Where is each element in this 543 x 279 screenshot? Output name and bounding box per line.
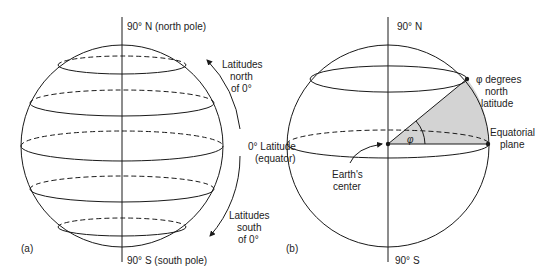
- south-label-b: 90° S: [395, 255, 420, 266]
- equator-sublabel: (equator): [255, 153, 296, 164]
- north-pole-label: 90° N (north pole): [127, 21, 206, 32]
- earth-center-label-2: center: [333, 181, 361, 192]
- south-arrow: [210, 156, 240, 236]
- latitude-diagram: 90° N (north pole) 90° S (south pole) 0°…: [0, 0, 543, 279]
- earth-center-point: [386, 142, 390, 146]
- earth-center-label-1: Earth's: [332, 169, 363, 180]
- latitude-point: [465, 77, 469, 81]
- south-latitudes-label-2: south: [237, 222, 261, 233]
- south-pole-label: 90° S (south pole): [127, 255, 207, 266]
- north-latitudes-label-3: of 0°: [231, 83, 252, 94]
- north-latitudes-label-1: Latitudes: [222, 59, 263, 70]
- panel-a-tag: (a): [21, 243, 33, 254]
- phi-label-1: φ degrees: [476, 74, 521, 85]
- center-arrow: [350, 144, 382, 163]
- south-latitudes-label-1: Latitudes: [229, 210, 270, 221]
- phi-label-2: north: [485, 86, 508, 97]
- panel-a: 90° N (north pole) 90° S (south pole) 0°…: [21, 17, 296, 266]
- north-latitudes-label-2: north: [230, 71, 253, 82]
- phi-label-3: latitude: [481, 98, 514, 109]
- north-label-b: 90° N: [397, 21, 422, 32]
- panel-b-tag: (b): [286, 243, 298, 254]
- panel-b: 90° N 90° S φ φ degrees north latitude E…: [286, 17, 535, 266]
- phi-symbol: φ: [407, 134, 414, 145]
- equator-point: [486, 142, 490, 146]
- equatorial-plane-label-1: Equatorial: [490, 127, 535, 138]
- south-latitudes-label-3: of 0°: [238, 234, 259, 245]
- equatorial-plane-label-2: plane: [500, 139, 525, 150]
